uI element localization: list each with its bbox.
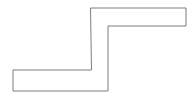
figure-canvas	[0, 0, 196, 94]
figure-svg	[0, 0, 196, 94]
z-step-polygon-shape	[13, 8, 186, 91]
